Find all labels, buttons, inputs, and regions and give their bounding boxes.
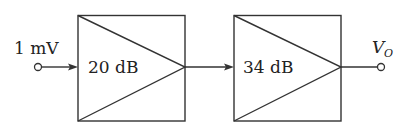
interstage-connection — [185, 64, 234, 71]
input-voltage-label: 1 mV — [14, 38, 59, 58]
stage-1-gain-label: 20 dB — [88, 57, 138, 77]
amplifier-stage-2: 34 dB — [234, 16, 341, 122]
input-node: 1 mV — [14, 38, 78, 71]
output-terminal-icon — [378, 64, 385, 71]
input-terminal-icon — [35, 64, 42, 71]
stage-2-gain-label: 34 dB — [243, 57, 293, 77]
amplifier-chain-diagram: 1 mV 20 dB 34 dB V O — [0, 0, 412, 129]
amplifier-stage-1: 20 dB — [78, 16, 185, 122]
output-node: V O — [341, 37, 393, 71]
output-voltage-subscript: O — [384, 47, 393, 60]
